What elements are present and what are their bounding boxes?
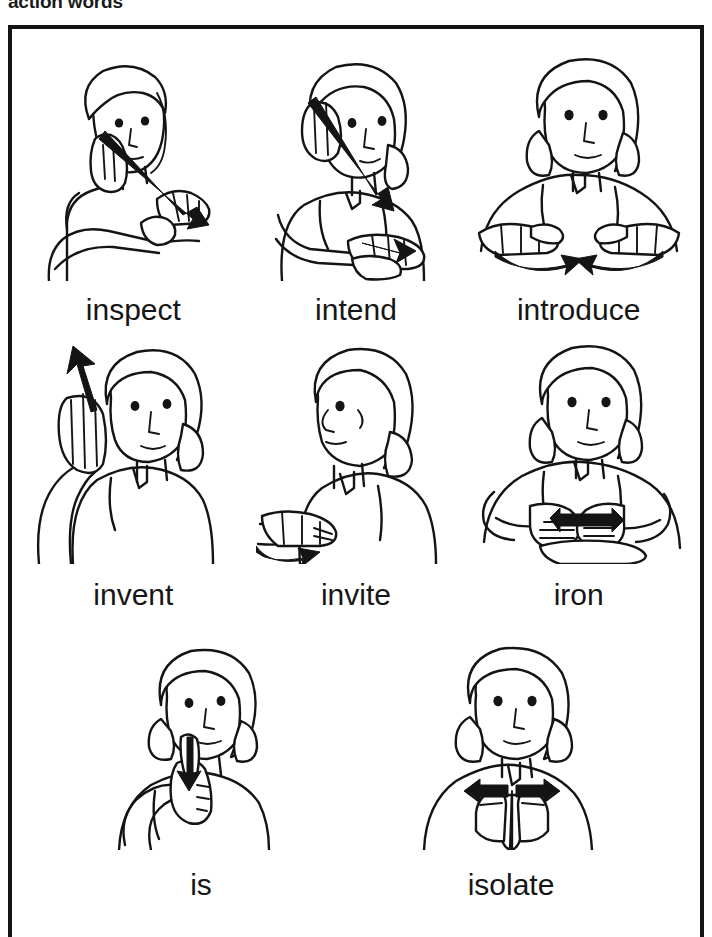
illustration-frame: inspect [8, 25, 704, 937]
sign-grid: inspect [12, 29, 700, 937]
asl-sign-intend-icon [248, 53, 463, 281]
asl-sign-is-icon [106, 645, 296, 850]
asl-sign-introduce-icon [471, 53, 686, 281]
sign-label: isolate [468, 870, 555, 900]
sign-cell-introduce[interactable]: introduce [471, 53, 686, 325]
sign-row: is [22, 610, 690, 900]
sign-label: intend [315, 295, 397, 325]
asl-sign-iron-icon [471, 342, 686, 564]
sign-label: introduce [517, 295, 640, 325]
sign-cell-iron[interactable]: iron [471, 342, 686, 610]
page-title: action words [8, 0, 123, 13]
sign-cell-invite[interactable]: invite [248, 342, 463, 610]
sign-label: invite [321, 580, 391, 610]
sign-cell-is[interactable]: is [106, 645, 296, 900]
asl-sign-isolate-icon [416, 645, 606, 850]
sign-label: iron [554, 580, 604, 610]
sign-label: inspect [86, 295, 181, 325]
asl-sign-invite-icon [248, 342, 463, 564]
sign-row: inspect [22, 35, 690, 325]
sign-label: invent [93, 580, 173, 610]
sign-cell-isolate[interactable]: isolate [416, 645, 606, 900]
sign-row: invent [22, 325, 690, 610]
sign-cell-inspect[interactable]: inspect [26, 53, 241, 325]
asl-sign-invent-icon [26, 342, 241, 564]
sign-cell-invent[interactable]: invent [26, 342, 241, 610]
sign-label: is [190, 870, 212, 900]
sign-cell-intend[interactable]: intend [248, 53, 463, 325]
asl-sign-inspect-icon [26, 53, 241, 281]
